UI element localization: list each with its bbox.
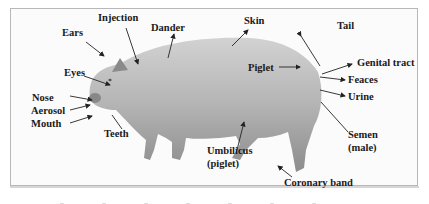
label-feaces: Feaces xyxy=(348,74,378,85)
label-nose: Nose xyxy=(32,92,54,103)
label-teeth: Teeth xyxy=(104,128,129,139)
label-injection: Injection xyxy=(98,12,138,23)
label-dander: Dander xyxy=(151,22,185,33)
label-ears: Ears xyxy=(62,27,83,38)
label-mouth: Mouth xyxy=(31,118,61,129)
label-tail: Tail xyxy=(337,20,354,31)
label-skin: Skin xyxy=(244,15,264,26)
label-semen-note: (male) xyxy=(348,142,377,153)
cropped-caption-fragment xyxy=(60,193,360,199)
label-eyes: Eyes xyxy=(64,67,85,78)
label-umbilicus: Umbilicus xyxy=(207,145,253,156)
pig-body xyxy=(89,38,321,172)
label-semen: Semen xyxy=(348,129,378,140)
label-urine: Urine xyxy=(348,91,374,102)
label-coronary-band: Coronary band xyxy=(284,177,353,188)
label-piglet: Piglet xyxy=(248,62,274,73)
label-genital-tract: Genital tract xyxy=(357,57,414,68)
label-umbilicus-note: (piglet) xyxy=(207,158,239,169)
label-aerosol: Aerosol xyxy=(31,105,65,116)
